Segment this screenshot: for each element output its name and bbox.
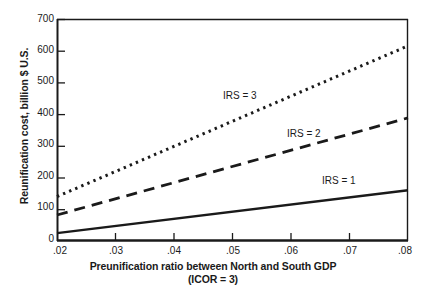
x-tick-label: .06 — [274, 246, 308, 256]
x-tick-label: .07 — [333, 246, 367, 256]
chart-figure: Reunification cost, billion $ U.S. 0 100… — [0, 0, 426, 296]
series-annotation-irs-2: IRS = 2 — [287, 129, 321, 139]
series-line-irs-1 — [57, 190, 408, 233]
series-annotation-irs-1: IRS = 1 — [322, 176, 356, 186]
x-tick-label: .03 — [99, 246, 133, 256]
series-annotation-irs-3: IRS = 3 — [223, 91, 257, 101]
x-tick-label: .08 — [388, 246, 422, 256]
series-line-irs-2 — [57, 118, 408, 215]
x-axis-title-sub: (ICOR = 3) — [0, 273, 426, 286]
x-tick-label: .04 — [157, 246, 191, 256]
x-tick-label: .05 — [216, 246, 250, 256]
x-axis-title-main: Preunification ratio between North and S… — [0, 260, 426, 273]
x-axis-title: Preunification ratio between North and S… — [0, 260, 426, 286]
x-tick-label: .02 — [43, 246, 77, 256]
series-line-irs-3 — [57, 46, 408, 197]
